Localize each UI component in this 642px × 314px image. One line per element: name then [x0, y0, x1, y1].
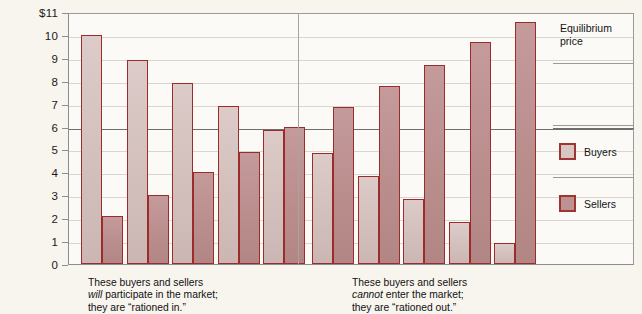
plot-area: [68, 13, 634, 265]
bar-chart-figure: 012345678910$11 Equilibrium price Buyers…: [0, 0, 642, 314]
bar-buyers-2[interactable]: [127, 60, 148, 264]
legend-swatch-buyers-icon: [559, 143, 576, 160]
bar-sellers-8[interactable]: [424, 65, 445, 264]
equilibrium-price-label: Equilibrium price: [560, 22, 632, 47]
legend-label-buyers: Buyers: [584, 146, 617, 158]
caption-right-line2-rest: enter the market;: [383, 289, 464, 300]
legend-label-sellers: Sellers: [584, 198, 616, 210]
y-axis-tick-label: 5: [51, 144, 58, 156]
y-axis-tick-label: 2: [51, 213, 58, 225]
caption-right-line2: cannot enter the market;: [352, 289, 467, 301]
y-axis-tick-label: 4: [51, 167, 58, 179]
bar-buyers-6[interactable]: [312, 153, 333, 264]
y-axis-tick-label: 6: [51, 122, 58, 134]
legend-entry-sellers[interactable]: Sellers: [559, 195, 616, 212]
bar-buyers-4[interactable]: [218, 106, 239, 264]
caption-left-line1: These buyers and sellers: [88, 277, 218, 289]
y-axis-tick-label: 7: [51, 99, 58, 111]
bar-buyers-3[interactable]: [172, 83, 193, 264]
caption-right-line1: These buyers and sellers: [352, 277, 467, 289]
caption-rationed-in: These buyers and sellers will participat…: [88, 277, 218, 314]
caption-right-line3: they are “rationed out.”: [352, 302, 467, 314]
y-axis: 012345678910$11: [0, 0, 68, 280]
bar-sellers-2[interactable]: [148, 195, 169, 264]
caption-left-emphasis: will: [88, 289, 102, 300]
equilibrium-label-line1: Equilibrium: [560, 22, 632, 35]
equilibrium-label-line2: price: [560, 35, 632, 48]
equilibrium-price-line-extension: [553, 128, 634, 129]
legend-panel: Equilibrium price Buyers Sellers: [553, 13, 634, 265]
bar-sellers-10[interactable]: [515, 22, 536, 264]
caption-left-line2: will participate in the market;: [88, 289, 218, 301]
y-axis-tick-label: 9: [51, 53, 58, 65]
y-axis-tick-label: 1: [51, 236, 58, 248]
bar-buyers-8[interactable]: [403, 199, 424, 264]
bar-sellers-5[interactable]: [284, 127, 305, 264]
bar-buyers-7[interactable]: [358, 176, 379, 264]
caption-left-line3: they are “rationed in.”: [88, 302, 218, 314]
group-divider: [298, 14, 299, 264]
legend-divider-bottom: [553, 177, 634, 178]
y-axis-tick-label: 8: [51, 76, 58, 88]
bar-sellers-7[interactable]: [379, 86, 400, 264]
y-axis-tick-label: 0: [51, 259, 58, 271]
y-axis-tick-label: 10: [45, 30, 58, 42]
caption-rationed-out: These buyers and sellers cannot enter th…: [352, 277, 467, 314]
y-axis-tick-label: 3: [51, 190, 58, 202]
bar-buyers-10[interactable]: [494, 243, 515, 264]
bar-buyers-5[interactable]: [263, 130, 284, 264]
legend-entry-buyers[interactable]: Buyers: [559, 143, 617, 160]
bar-sellers-6[interactable]: [333, 107, 354, 264]
bar-sellers-1[interactable]: [102, 216, 123, 264]
legend-divider-top: [553, 63, 634, 64]
bar-sellers-4[interactable]: [239, 152, 260, 264]
legend-divider-mid: [553, 125, 634, 126]
bar-sellers-3[interactable]: [193, 172, 214, 264]
caption-left-line2-rest: participate in the market;: [102, 289, 218, 300]
y-axis-tick-label: $11: [39, 7, 58, 19]
bar-buyers-1[interactable]: [81, 35, 102, 264]
bar-buyers-9[interactable]: [449, 222, 470, 264]
y-axis-tick-mark: [62, 265, 68, 266]
caption-right-emphasis: cannot: [352, 289, 383, 300]
bar-sellers-9[interactable]: [470, 42, 491, 264]
legend-swatch-sellers-icon: [559, 195, 576, 212]
bars-container: [69, 14, 633, 264]
